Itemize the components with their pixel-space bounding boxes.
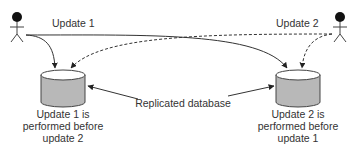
db-right-caption-line1: Update 2 is	[271, 108, 324, 120]
replicated-arrow-left	[88, 86, 138, 99]
database-left-icon	[41, 70, 85, 107]
actor-left-icon	[10, 12, 24, 42]
actor-right-icon	[333, 12, 347, 42]
replicated-arrow-right	[228, 86, 274, 96]
db-right-caption-line3: update 1	[278, 132, 319, 144]
db-left-caption-line3: update 2	[43, 132, 84, 144]
update2-to-right-db-arrow	[302, 34, 332, 68]
update1-to-left-db-arrow	[26, 35, 55, 68]
update1-label: Update 1	[52, 17, 95, 29]
database-right-icon	[276, 70, 320, 107]
replicated-database-label: Replicated database	[135, 97, 231, 109]
db-left-caption-line2: performed before	[23, 120, 104, 132]
db-right-caption-line2: performed before	[258, 120, 339, 132]
replicated-database-diagram: Update 1 Update 2 Replicated database Up…	[0, 0, 356, 149]
update2-label: Update 2	[276, 17, 319, 29]
db-left-caption-line1: Update 1 is	[36, 108, 89, 120]
